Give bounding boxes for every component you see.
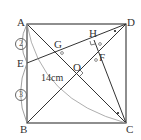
label-c: C <box>126 124 133 135</box>
angle-mark-f2 <box>95 59 98 62</box>
angle-mark-g <box>61 52 64 55</box>
length-label: 14cm <box>41 73 63 83</box>
label-d: D <box>127 17 135 28</box>
label-a: A <box>17 17 25 28</box>
geometry-diagram: A D B C E F G H O 14cm 2 3 <box>0 0 141 140</box>
label-h: H <box>89 28 97 39</box>
angle-dot-c <box>117 112 119 114</box>
ratio-bottom: 3 <box>15 89 27 101</box>
angle-mark-f1 <box>99 43 102 46</box>
label-g: G <box>54 39 62 50</box>
angle-dot-d <box>114 30 116 32</box>
ratio-top: 2 <box>15 38 27 50</box>
label-b: B <box>20 124 27 135</box>
label-f: F <box>99 52 105 63</box>
segment-ed <box>27 24 126 63</box>
label-e: E <box>17 58 24 69</box>
label-o: O <box>73 62 81 73</box>
